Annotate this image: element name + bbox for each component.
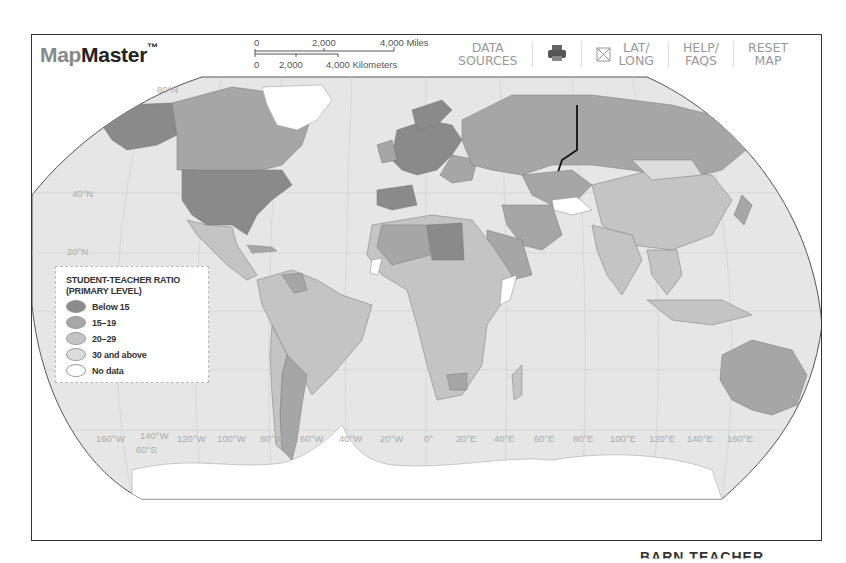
svg-text:80°W: 80°W — [260, 433, 283, 444]
lat-label-60s: 60°S — [136, 444, 157, 455]
country-botswana[interactable] — [447, 373, 467, 390]
reset-label-2: MAP — [748, 54, 788, 67]
print-button[interactable] — [533, 45, 581, 63]
logo-main: Master — [81, 43, 147, 66]
svg-text:60°E: 60°E — [534, 433, 555, 444]
swatch-no-data — [66, 364, 86, 377]
legend-item-30-above: 30 and above — [66, 348, 198, 361]
svg-text:20°E: 20°E — [456, 433, 477, 444]
scale-km-start: 0 — [254, 59, 259, 70]
svg-text:40°W: 40°W — [339, 433, 362, 444]
legend-label: Below 15 — [92, 302, 129, 312]
swatch-15-19 — [66, 316, 86, 329]
legend-label: 30 and above — [92, 350, 147, 360]
data-sources-button[interactable]: DATA SOURCES — [444, 41, 532, 67]
svg-text:100°E: 100°E — [610, 433, 636, 444]
crossed-box-icon — [596, 47, 611, 62]
scale-bar-lines — [254, 47, 414, 59]
svg-text:140°E: 140°E — [687, 433, 713, 444]
legend-label: No data — [92, 366, 124, 376]
lat-long-button[interactable]: LAT/ LONG — [582, 41, 668, 67]
scale-km-end: 4,000 Kilometers — [326, 59, 397, 70]
map-legend: STUDENT-TEACHER RATIO (PRIMARY LEVEL) Be… — [55, 266, 209, 383]
reset-map-button[interactable]: RESET MAP — [734, 41, 802, 67]
toolbar: DATA SOURCES LAT/ LONG HELP/ — [444, 37, 802, 71]
svg-text:0°: 0° — [424, 433, 433, 444]
map-frame: MapMaster™ 0 2,000 4,000 Miles 0 2,000 4… — [31, 34, 822, 541]
legend-title-line2: (PRIMARY LEVEL) — [66, 286, 198, 297]
legend-item-no-data: No data — [66, 364, 198, 377]
logo-prefix: Map — [40, 43, 81, 66]
legend-label: 20–29 — [92, 334, 116, 344]
legend-title-line1: STUDENT-TEACHER RATIO — [66, 275, 198, 286]
legend-item-15-19: 15–19 — [66, 316, 198, 329]
longitude-labels: 160°W 140°W 120°W 100°W 80°W 60°W 40°W 2… — [96, 430, 753, 444]
svg-text:120°W: 120°W — [177, 433, 206, 444]
lat-label-80n: 80°N — [157, 84, 178, 95]
svg-text:160°E: 160°E — [727, 433, 753, 444]
svg-text:20°W: 20°W — [380, 433, 403, 444]
country-libya[interactable] — [427, 223, 464, 260]
help-faqs-button[interactable]: HELP/ FAQS — [669, 41, 733, 67]
svg-text:60°W: 60°W — [300, 433, 323, 444]
help-label-2: FAQS — [683, 54, 719, 67]
svg-text:100°W: 100°W — [217, 433, 246, 444]
lat-label-20n: 20°N — [67, 246, 88, 257]
lat-long-label-2: LONG — [619, 54, 654, 67]
scale-bar: 0 2,000 4,000 Miles 0 2,000 4,000 Kilome… — [254, 37, 444, 77]
swatch-30-above — [66, 348, 86, 361]
swatch-20-29 — [66, 332, 86, 345]
swatch-below-15 — [66, 300, 86, 313]
printer-icon — [547, 45, 567, 61]
svg-text:40°E: 40°E — [494, 433, 515, 444]
svg-text:140°W: 140°W — [140, 430, 169, 441]
logo-trademark: ™ — [147, 41, 158, 53]
svg-text:80°E: 80°E — [573, 433, 594, 444]
legend-label: 15–19 — [92, 318, 116, 328]
legend-item-20-29: 20–29 — [66, 332, 198, 345]
legend-item-below-15: Below 15 — [66, 300, 198, 313]
scale-km-mid: 2,000 — [279, 59, 303, 70]
country-new-zealand[interactable] — [807, 420, 821, 443]
svg-text:160°W: 160°W — [96, 433, 125, 444]
mapmaster-logo: MapMaster™ — [40, 43, 158, 67]
data-sources-label-2: SOURCES — [458, 54, 518, 67]
svg-text:120°E: 120°E — [649, 433, 675, 444]
cutoff-footer-text: BARN TEACHER — [640, 549, 764, 563]
lat-label-40n: 40°N — [72, 188, 93, 199]
